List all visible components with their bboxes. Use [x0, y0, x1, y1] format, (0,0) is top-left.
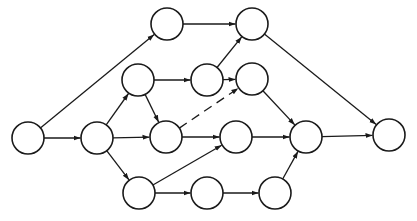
node-circle-icon: [123, 177, 155, 209]
node-n7: [191, 64, 223, 96]
edge-line: [107, 151, 129, 180]
node-circle-icon: [191, 64, 223, 96]
edge-n12-to-n13-arrow: [283, 151, 298, 179]
edge-line: [113, 137, 150, 138]
node-n5: [150, 121, 182, 153]
node-n3: [122, 64, 154, 96]
edge-n2-to-n5-arrow: [113, 137, 150, 138]
node-circle-icon: [81, 122, 113, 154]
node-n4: [151, 8, 183, 40]
node-circle-icon: [150, 121, 182, 153]
edge-line: [322, 135, 373, 136]
edge-n13-to-n14-arrow: [322, 135, 373, 136]
node-n14: [373, 119, 405, 151]
edge-n2-to-n3-arrow: [106, 94, 128, 125]
node-circle-icon: [220, 121, 252, 153]
node-circle-icon: [259, 177, 291, 209]
node-circle-icon: [12, 122, 44, 154]
node-n2: [81, 122, 113, 154]
node-n1: [12, 122, 44, 154]
edge-n3-to-n5-arrow: [145, 94, 159, 122]
node-circle-icon: [373, 119, 405, 151]
edge-n2-to-n6-arrow: [107, 151, 129, 180]
node-circle-icon: [191, 177, 223, 209]
edges-layer: [40, 24, 376, 193]
network-diagram: [0, 0, 417, 221]
edge-line: [145, 94, 159, 122]
node-n6: [123, 177, 155, 209]
edge-n9-to-n13-arrow: [263, 91, 295, 125]
node-circle-icon: [290, 121, 322, 153]
node-n11: [191, 177, 223, 209]
node-circle-icon: [122, 64, 154, 96]
edge-n7-to-n8-arrow: [217, 37, 242, 68]
node-n9: [236, 63, 268, 95]
edge-line: [106, 94, 128, 125]
node-circle-icon: [236, 63, 268, 95]
node-n13: [290, 121, 322, 153]
edge-line: [217, 37, 242, 68]
node-n8: [236, 8, 268, 40]
node-circle-icon: [236, 8, 268, 40]
node-circle-icon: [151, 8, 183, 40]
edge-line: [263, 91, 295, 125]
node-n10: [220, 121, 252, 153]
edge-line: [283, 151, 298, 179]
node-n12: [259, 177, 291, 209]
